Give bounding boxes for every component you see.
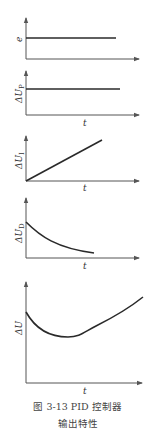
x-label-t: t [83, 261, 87, 271]
figure-caption-line2: 输出特性 [0, 416, 155, 430]
y-label-delta-ud: ΔUD [14, 223, 26, 244]
panel-total-output: ΔU t [14, 282, 143, 396]
y-label-e: e [14, 37, 24, 42]
panel-error: e [14, 18, 139, 59]
x-label-t: t [83, 118, 87, 128]
figure-caption-line1: 图 3-13 PID 控制器 [0, 399, 155, 413]
x-label-t: t [83, 183, 87, 193]
pid-output-figure: e ΔUP t ΔUI t ΔUD t ΔU t [0, 0, 155, 433]
integral-output-ramp [26, 140, 102, 181]
y-label-delta-ui: ΔUI [14, 152, 26, 170]
panel-derivative: ΔUD t [14, 198, 139, 271]
panel-integral: ΔUI t [14, 136, 139, 193]
y-label-delta-up: ΔUP [14, 84, 26, 104]
derivative-output-decay [26, 222, 94, 253]
pid-total-output-curve [26, 297, 143, 337]
x-label-t: t [83, 386, 87, 396]
y-label-delta-u: ΔU [14, 321, 24, 336]
panel-proportional: ΔUP t [14, 71, 139, 128]
